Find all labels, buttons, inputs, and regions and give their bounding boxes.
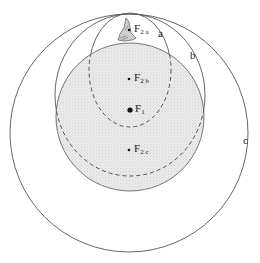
focus-point-f2a [128,29,131,32]
focus-label-f2b: F2 b [134,72,149,85]
focus-label-subscript: 2 b [140,77,149,85]
focus-label-f2a: F2 a [134,23,148,36]
focus-label-subscript: 2 a [140,28,148,36]
focus-point-f2c [128,149,131,152]
focus-point-f1 [127,107,132,112]
curve-label-b: b [190,50,196,61]
focus-label-f2c: F2 c [134,143,148,156]
curve-label-a: a [158,28,163,39]
orbit-diagram: F1F2 aF2 bF2 cabc [0,0,260,263]
focus-label-subscript: 1 [141,108,145,116]
focus-point-f2b [128,78,131,81]
shaded-region-circle [56,43,204,191]
focus-label-subscript: 2 c [140,148,148,156]
focus-label-f1: F1 [135,103,145,116]
curve-label-c: c [243,135,248,146]
orbit-diagram-canvas [0,0,260,263]
